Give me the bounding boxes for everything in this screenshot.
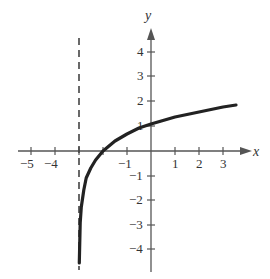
y-axis-label: y [143,8,152,23]
x-tick-label: 3 [220,156,227,171]
log-curve [79,105,236,263]
x-tick-label: −4 [44,156,58,171]
y-tick-label: −1 [129,168,143,183]
y-tick-label: 3 [137,68,144,83]
x-tick-label: −5 [20,156,34,171]
y-axis-arrow-icon [147,28,155,40]
y-tick-label: −4 [129,241,143,256]
graph-canvas: x y −5 −4 −1 1 2 3 4 3 2 1 −1 −2 −3 −4 [0,0,270,279]
x-axis-label: x [252,144,260,159]
y-tick-label: 4 [137,44,144,59]
y-tick-label: −3 [129,217,143,232]
y-tick-label: 2 [137,93,144,108]
x-axis-arrow-icon [240,147,252,155]
y-tick-label: −2 [129,192,143,207]
x-tick-label: 2 [196,156,203,171]
x-tick-label: 1 [172,156,179,171]
